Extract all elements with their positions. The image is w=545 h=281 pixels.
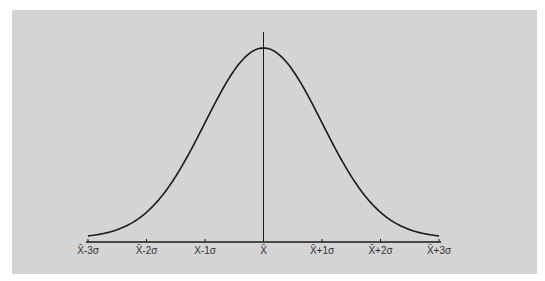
x-axis-labels: X̄-3σX̄-2σX-1σX̄X̄+1σX̄+2σX̄+3σ — [77, 244, 452, 256]
x-tick-label: X̄+1σ — [310, 244, 335, 256]
x-tick-label: X-1σ — [194, 245, 217, 256]
x-tick-label: X̄+2σ — [368, 244, 393, 256]
bell-curve-chart: X̄-3σX̄-2σX-1σX̄X̄+1σX̄+2σX̄+3σ — [0, 0, 545, 281]
x-tick-label: X̄-2σ — [136, 244, 159, 256]
x-tick-label: X̄-3σ — [77, 244, 100, 256]
x-tick-label: X̄+3σ — [427, 244, 452, 256]
x-tick-label: X̄ — [260, 244, 267, 256]
